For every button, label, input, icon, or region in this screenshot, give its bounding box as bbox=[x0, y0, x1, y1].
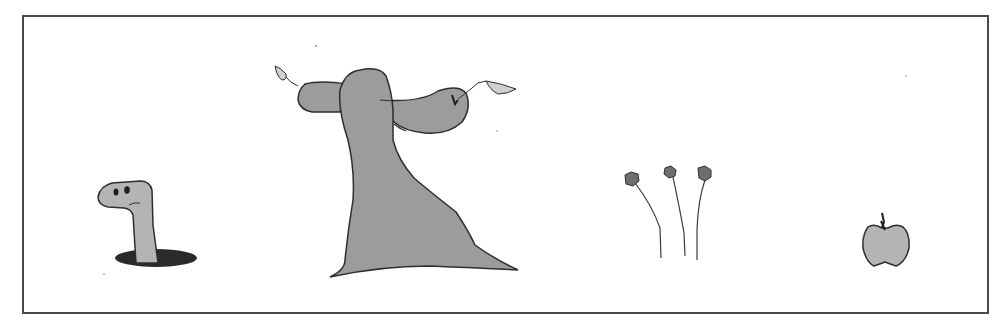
background-specks bbox=[103, 45, 907, 275]
flower-stem bbox=[673, 177, 685, 256]
worm-eye-left bbox=[114, 189, 119, 196]
apple-stem bbox=[881, 213, 885, 230]
tree-twig-left bbox=[285, 76, 298, 86]
leaf-right-icon bbox=[486, 81, 516, 94]
worm-eye-right bbox=[124, 186, 130, 194]
flowers-icon bbox=[625, 166, 711, 260]
apple-icon bbox=[863, 213, 909, 266]
flower-head bbox=[698, 166, 711, 181]
flower-stem bbox=[635, 183, 661, 258]
flower-head bbox=[625, 172, 639, 186]
leaf-left-icon bbox=[275, 66, 286, 80]
flower-stem bbox=[697, 180, 705, 260]
illustration-canvas bbox=[0, 0, 1007, 330]
apple-body bbox=[863, 225, 909, 266]
tree-icon bbox=[275, 66, 518, 277]
worm-icon bbox=[98, 181, 197, 267]
flower-head bbox=[664, 166, 676, 178]
